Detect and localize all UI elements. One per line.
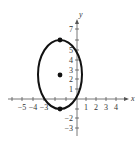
x-tick-label: 4 — [114, 103, 118, 112]
y-tick-label: 7 — [69, 25, 73, 34]
y-tick-label: −2 — [64, 114, 73, 123]
x-axis-name: x — [130, 94, 135, 103]
y-tick-label: 1 — [69, 85, 73, 94]
y-tick-label: 2 — [69, 75, 73, 84]
y-tick-label: −3 — [64, 124, 73, 133]
center-point — [58, 73, 63, 78]
x-tick-label: −5 — [18, 103, 27, 112]
ellipse-graph: x −5−4−31234 y 754321−2−3 — [0, 0, 139, 142]
x-tick-label: 2 — [94, 103, 98, 112]
x-tick-label: 1 — [84, 103, 88, 112]
x-tick-label: 3 — [104, 103, 108, 112]
y-tick-label: 4 — [69, 56, 73, 65]
x-tick-label: −4 — [29, 103, 38, 112]
y-axis-name: y — [78, 10, 83, 19]
x-tick-label: −3 — [40, 103, 49, 112]
vertex-top-point — [58, 38, 63, 43]
vertex-bottom-point — [58, 107, 63, 112]
y-axis: y 754321−2−3 — [64, 10, 83, 136]
y-tick-label: 3 — [69, 66, 73, 75]
